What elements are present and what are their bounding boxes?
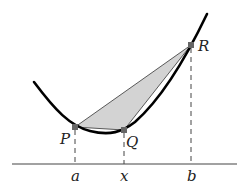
diagram-canvas: P Q R a x b <box>0 0 248 190</box>
axis-label-x: x <box>120 167 129 185</box>
label-q: Q <box>126 133 138 151</box>
point-r-marker <box>188 42 194 48</box>
point-p-marker <box>72 124 78 130</box>
label-r: R <box>197 37 209 55</box>
axis-label-a: a <box>71 167 80 185</box>
triangle-pqr <box>75 45 191 130</box>
axis-label-b: b <box>187 167 197 185</box>
label-p: P <box>59 130 71 148</box>
